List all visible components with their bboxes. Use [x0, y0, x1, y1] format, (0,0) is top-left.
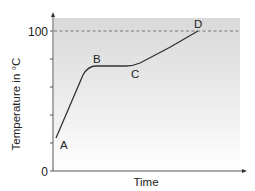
point-label-a: A — [60, 139, 68, 151]
x-axis-title: Time — [133, 176, 158, 188]
point-label-c: C — [131, 68, 139, 80]
y-tick-label-100: 100 — [28, 25, 48, 39]
y-axis-title: Temperature in °C — [10, 58, 22, 151]
plot-background — [54, 18, 240, 170]
y-axis-arrow-icon — [51, 12, 55, 17]
y-tick-label-0: 0 — [41, 165, 48, 179]
x-axis-arrow-icon — [242, 169, 247, 173]
heating-curve-chart: 100 0 Temperature in °C Time A B C D — [0, 0, 255, 191]
point-label-b: B — [93, 53, 101, 65]
point-label-d: D — [194, 18, 202, 30]
